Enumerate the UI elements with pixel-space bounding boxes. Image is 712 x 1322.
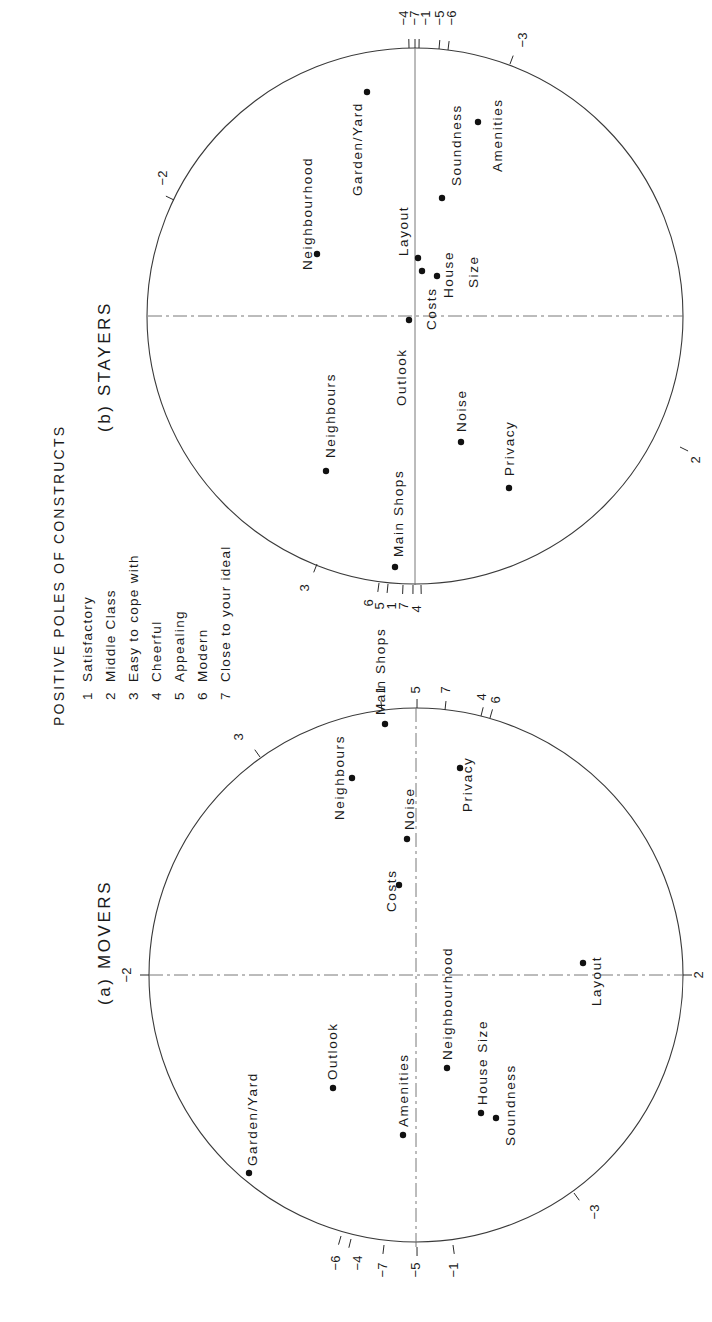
data-point: Garden/Yard	[350, 89, 371, 196]
tick-label: 4	[409, 605, 424, 612]
legend-items: 1 Satisfactory 2 Middle Class 3 Easy to …	[80, 545, 233, 700]
point-label: Main Shops	[391, 470, 406, 557]
point-marker	[349, 775, 355, 781]
point-label: House Size	[475, 1020, 490, 1105]
tick-label: 7	[438, 686, 453, 693]
tick-label: −1	[418, 11, 433, 26]
point-label: Outlook	[394, 348, 409, 406]
point-label: Neighbours	[323, 373, 338, 458]
legend-item-number: 5	[172, 691, 187, 700]
data-point: Layout	[580, 956, 604, 1006]
tick-mark	[439, 40, 440, 49]
data-point: Soundness	[493, 1064, 518, 1146]
data-point: Neighbourhood	[300, 157, 321, 270]
point-marker	[323, 468, 329, 474]
point-marker	[419, 268, 425, 274]
point-marker	[439, 195, 445, 201]
data-point: Neighbours	[323, 373, 338, 474]
data-point: Neighbours	[332, 735, 356, 820]
point-label: Soundness	[449, 104, 464, 186]
tick-mark	[481, 707, 483, 716]
tick-label: −3	[587, 1205, 602, 1220]
point-label: Costs	[384, 869, 399, 912]
legend-item: 4 Cheerful	[149, 621, 164, 700]
data-point: Outlook	[325, 1022, 340, 1091]
data-point: Main Shops	[373, 628, 389, 727]
point-label: Neighbourhood	[440, 947, 455, 1060]
legend-item: 6 Modern	[195, 628, 210, 700]
point-label: Neighbourhood	[300, 157, 315, 270]
point-marker	[506, 485, 512, 491]
point-label: House	[441, 251, 456, 298]
legend: POSITIVE POLES OF CONSTRUCTS 1 Satisfact…	[51, 425, 233, 726]
point-marker	[406, 317, 412, 323]
tick-mark	[255, 750, 260, 757]
tick-label: −7	[375, 1263, 390, 1278]
data-point: Privacy	[502, 421, 517, 492]
tick-label: −6	[328, 1256, 343, 1271]
point-marker	[458, 439, 464, 445]
tick-mark	[387, 584, 388, 593]
tick-label: 5	[408, 686, 423, 693]
point-label: Privacy	[460, 757, 475, 812]
point-marker	[392, 564, 398, 570]
legend-item-number: 6	[195, 691, 210, 700]
panel-title-stayers: (b) STAYERS	[95, 301, 114, 432]
tick-label: 2	[688, 456, 703, 463]
point-label: Noise	[402, 787, 417, 830]
legend-item-label: Close to your ideal	[218, 545, 233, 682]
point-label: Noise	[454, 389, 469, 432]
point-label: Garden/Yard	[350, 102, 365, 196]
point-label: Amenities	[396, 1053, 411, 1127]
point-label: Privacy	[502, 421, 517, 476]
legend-item-number: 2	[103, 691, 118, 700]
point-label: Amenities	[490, 98, 505, 172]
tick-mark	[453, 1245, 454, 1254]
construct-plots-figure: POSITIVE POLES OF CONSTRUCTS 1 Satisfact…	[0, 0, 712, 1322]
movers-plot: −223−315746−6−4−7−5−1 Main ShopsNeighbou…	[119, 628, 706, 1278]
data-point: Soundness	[439, 104, 464, 201]
point-marker	[314, 251, 320, 257]
legend-item-label: Satisfactory	[80, 596, 95, 682]
legend-item-number: 1	[80, 691, 95, 700]
point-marker	[404, 836, 410, 842]
tick-mark	[490, 709, 492, 718]
tick-mark	[680, 447, 688, 451]
point-marker	[415, 255, 421, 261]
legend-item: 5 Appealing	[172, 610, 187, 700]
data-point: Layout	[396, 206, 422, 261]
tick-mark	[510, 56, 513, 64]
data-point: Outlook	[394, 317, 413, 406]
tick-mark	[574, 1193, 579, 1200]
legend-item: 2 Middle Class	[103, 589, 118, 700]
legend-item-label: Easy to cope with	[126, 554, 141, 682]
tick-label: −1	[446, 1263, 461, 1278]
legend-title: POSITIVE POLES OF CONSTRUCTS	[51, 425, 67, 726]
point-marker	[493, 1115, 499, 1121]
point-marker	[364, 89, 370, 95]
tick-label: −5	[408, 1263, 423, 1278]
point-marker	[478, 1110, 484, 1116]
tick-label: 3	[231, 733, 246, 740]
point-marker	[444, 1065, 450, 1071]
stayers-plot: −223−3−4−7−1−5−665174 NeighbourhoodGarde…	[147, 11, 703, 613]
point-label: Outlook	[325, 1022, 340, 1080]
legend-item-label: Appealing	[172, 610, 187, 682]
data-point: Neighbourhood	[440, 947, 455, 1071]
tick-mark	[445, 701, 446, 710]
point-marker	[400, 1132, 406, 1138]
tick-label: 4	[474, 693, 489, 700]
tick-label: 2	[691, 971, 706, 978]
point-label: Garden/Yard	[245, 1072, 260, 1166]
tick-label: 6	[488, 696, 503, 703]
tick-mark	[448, 41, 449, 50]
data-point: House Size	[475, 1020, 490, 1116]
legend-item: 7 Close to your ideal	[218, 545, 233, 700]
tick-label: −3	[515, 33, 530, 48]
point-marker	[580, 960, 586, 966]
point-marker	[475, 119, 481, 125]
legend-item-number: 4	[149, 691, 164, 700]
tick-mark	[383, 1245, 384, 1254]
legend-item: 1 Satisfactory	[80, 596, 95, 700]
tick-mark	[339, 1236, 341, 1245]
